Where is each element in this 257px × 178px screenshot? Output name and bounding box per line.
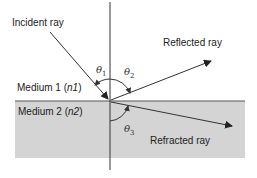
- medium-2-close: ): [79, 106, 82, 117]
- medium-1-label: Medium 1 (n1): [17, 82, 81, 93]
- medium-1-text: Medium 1 (: [17, 82, 67, 93]
- theta3-label: θ3: [124, 123, 135, 137]
- medium-2-text: Medium 2 (: [18, 106, 68, 117]
- theta2-arc: [110, 79, 130, 93]
- theta1-sub: 1: [102, 70, 106, 78]
- refracted-ray-label: Refracted ray: [150, 135, 210, 146]
- theta3-sub: 3: [130, 129, 134, 137]
- medium-1-close: ): [78, 82, 81, 93]
- medium-2-label: Medium 2 (n2): [18, 106, 82, 117]
- incident-ray-label: Incident ray: [12, 17, 64, 28]
- theta2-label: θ2: [124, 66, 135, 80]
- medium-1-index: n1: [67, 82, 78, 93]
- theta2-sub: 2: [130, 72, 134, 80]
- reflected-ray-label: Reflected ray: [163, 37, 222, 48]
- theta1-arc: [95, 79, 110, 85]
- medium-2-index: n2: [68, 106, 79, 117]
- theta1-label: θ1: [96, 64, 107, 78]
